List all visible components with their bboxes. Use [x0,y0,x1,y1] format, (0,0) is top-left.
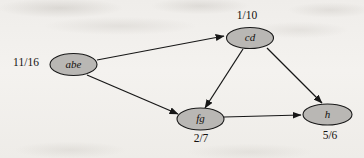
time-label-cd: 1/10 [237,9,258,21]
node-cd[interactable]: cd [227,28,274,49]
edge-group [87,36,322,117]
time-label-h: 5/6 [323,129,338,141]
edge-cd-to-fg [205,49,243,108]
edge-abe-to-cd [97,36,224,60]
node-h-label: h [325,108,331,120]
component-graph: abe cd fg h 11/16 1/10 2/7 5/6 [0,0,364,158]
node-abe[interactable]: abe [50,54,97,76]
node-abe-label: abe [66,58,82,70]
time-label-group: 11/16 1/10 2/7 5/6 [13,9,337,144]
figure-canvas: abe cd fg h 11/16 1/10 2/7 5/6 [0,0,364,158]
edge-cd-to-h [267,48,322,103]
node-fg-label: fg [196,112,205,124]
edge-fg-to-h [224,115,301,117]
node-cd-label: cd [245,31,256,43]
time-label-abe: 11/16 [13,56,39,68]
node-h[interactable]: h [303,104,352,125]
edge-abe-to-fg [87,75,178,114]
time-label-fg: 2/7 [194,132,209,144]
node-fg[interactable]: fg [177,108,224,130]
